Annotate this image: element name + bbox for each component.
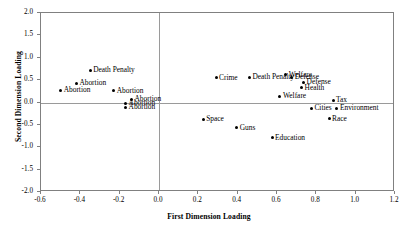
data-point [248,76,251,79]
data-point [112,89,115,92]
x-axis-tick-label: 0.6 [256,196,296,204]
x-axis-tick [40,191,41,194]
x-axis-tick-label: -0.4 [59,196,99,204]
x-axis-tick [197,191,198,194]
x-axis-tick [119,191,120,194]
y-axis-tick [37,79,40,80]
y-axis-tick-label: -0.5 [7,120,33,128]
x-axis-tick-label: 1.2 [374,196,414,204]
data-point [271,136,274,139]
x-axis-tick [355,191,356,194]
x-axis-tick [237,191,238,194]
y-axis-tick [37,34,40,35]
data-point [75,82,78,85]
y-axis-tick [37,146,40,147]
data-point [300,86,303,89]
data-point-label: Abortion [64,86,91,94]
y-axis-tick-label: 0.0 [7,98,33,106]
y-axis-tick-label: 1.0 [7,53,33,61]
y-axis-tick [37,102,40,103]
x-axis-tick-label: -0.2 [99,196,139,204]
data-point-label: Welfare [283,92,306,100]
x-axis-tick-label: 1.0 [335,196,375,204]
data-point [310,107,313,110]
data-point [202,118,205,121]
data-point [335,107,338,110]
x-axis-tick [394,191,395,194]
x-axis-tick [158,191,159,194]
data-point-label: Death Penalty [93,66,135,74]
data-point [332,99,335,102]
data-point [278,95,281,98]
data-point [124,106,127,109]
x-axis-tick-label: -0.6 [20,196,60,204]
y-axis-tick-label: -2.0 [7,187,33,195]
data-point [235,126,238,129]
y-axis-tick [37,191,40,192]
data-point-label: Cities [314,104,331,112]
data-point [215,76,218,79]
x-axis-tick [315,191,316,194]
y-axis-tick-label: 1.5 [7,30,33,38]
data-point [59,89,62,92]
x-axis-tick [79,191,80,194]
x-axis-tick-label: 0.4 [217,196,257,204]
x-axis-tick-label: 0.8 [295,196,335,204]
data-point-label: Crime [219,74,237,82]
y-axis-tick-label: 2.0 [7,8,33,16]
data-point-label: Space [206,115,224,123]
data-point [328,117,331,120]
data-point-label: Abortion [129,103,156,111]
data-point-label: Environment [340,104,379,112]
y-axis-tick [37,12,40,13]
data-point-label: Race [332,115,347,123]
x-axis-tick-label: 0.0 [138,196,178,204]
data-point [89,69,92,72]
data-point-label: Guns [240,124,256,132]
y-axis-tick [37,57,40,58]
data-point-label: Education [275,134,305,142]
scatter-plot-figure: Death PenaltyAbortionAbortionAbortionAbo… [0,0,418,236]
y-axis-tick [37,169,40,170]
data-point-label: Health [305,84,325,92]
plot-area: Death PenaltyAbortionAbortionAbortionAbo… [40,12,394,191]
y-axis-tick-label: -1.5 [7,165,33,173]
x-axis-title: First Dimension Loading [0,212,418,221]
data-point [124,102,127,105]
y-axis-tick [37,124,40,125]
x-axis-tick [276,191,277,194]
y-axis-tick-label: 0.5 [7,75,33,83]
y-axis-tick-label: -1.0 [7,142,33,150]
x-axis-tick-label: 0.2 [177,196,217,204]
